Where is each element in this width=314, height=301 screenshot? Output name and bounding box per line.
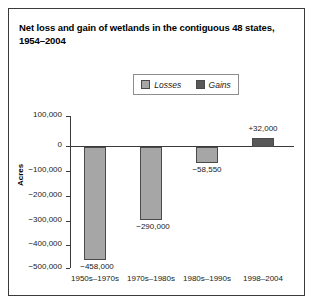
y-tick-2: −100,000 bbox=[66, 171, 70, 172]
chart-figure: Net loss and gain of wetlands in the con… bbox=[0, 0, 314, 301]
losses-swatch-icon bbox=[141, 80, 150, 89]
y-tick-5: −400,000 bbox=[66, 245, 70, 246]
gains-swatch-icon bbox=[196, 80, 205, 89]
chart-title: Net loss and gain of wetlands in the con… bbox=[19, 21, 294, 47]
x-tick-label-3: 1998–2004 bbox=[243, 274, 283, 283]
bar-1950s-1970s bbox=[84, 147, 106, 260]
y-tick-1: 0 bbox=[66, 146, 70, 147]
y-tick-label-0: 100,000 bbox=[33, 110, 62, 119]
y-tick-label-1: 0 bbox=[58, 140, 62, 149]
bar-value-1980s-1990s: −58,550 bbox=[174, 165, 240, 174]
x-tick-label-0: 1950s–1970s bbox=[71, 274, 119, 283]
y-tick-0: 100,000 bbox=[66, 116, 70, 117]
legend-label-losses: Losses bbox=[154, 80, 181, 90]
legend-label-gains: Gains bbox=[209, 80, 231, 90]
y-tick-label-5: −400,000 bbox=[28, 239, 62, 248]
x-tick-label-2: 1980s–1990s bbox=[183, 274, 231, 283]
legend-entry-losses: Losses bbox=[141, 80, 181, 90]
y-tick-3: −200,000 bbox=[66, 196, 70, 197]
y-axis-line bbox=[70, 116, 71, 268]
y-tick-4: −300,000 bbox=[66, 221, 70, 222]
bar-value-1950s-1970s: −458,000 bbox=[62, 262, 132, 271]
bar-1998-2004 bbox=[252, 138, 274, 147]
bar-value-1970s-1980s: −290,000 bbox=[118, 222, 188, 231]
y-tick-label-4: −300,000 bbox=[28, 215, 62, 224]
bar-1970s-1980s bbox=[140, 147, 162, 220]
bar-1980s-1990s bbox=[196, 147, 218, 163]
x-tick-label-1: 1970s–1980s bbox=[127, 274, 175, 283]
chart-legend: Losses Gains bbox=[133, 74, 239, 95]
y-tick-label-3: −200,000 bbox=[28, 190, 62, 199]
bar-value-1998-2004: +32,000 bbox=[230, 124, 296, 133]
plot-area: 100,000 0 −100,000 −200,000 −300,000 −40… bbox=[70, 116, 294, 268]
legend-entry-gains: Gains bbox=[196, 80, 231, 90]
y-tick-label-2: −100,000 bbox=[28, 165, 62, 174]
y-tick-label-6: −500,000 bbox=[28, 262, 62, 271]
y-axis-label: Acres bbox=[16, 164, 25, 186]
